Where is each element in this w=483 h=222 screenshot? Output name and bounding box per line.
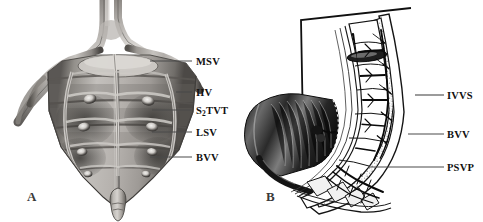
label-ivvs: IVVS [447,91,473,102]
panel-b-letter: B [266,189,275,205]
label-psvp: PSVP [447,163,474,174]
sacrum [40,40,200,209]
label-bvv: BVV [196,153,219,164]
label-iiv: IIV [196,88,212,99]
coccyx [110,188,126,221]
label-bvv: BVV [447,130,470,141]
label-s2tvt: S2TVT [196,106,228,118]
panel-b-artwork [241,0,483,222]
panel-b: B IVVSBVVPSVP [241,0,483,222]
panel-a-letter: A [27,189,37,205]
label-lsv: LSV [196,128,217,139]
anatomical-figure: A MSVIIVS2TVTLSVBVV [0,0,483,222]
panel-a: A MSVIIVS2TVTLSVBVV [0,0,241,222]
label-msv: MSV [196,57,220,68]
